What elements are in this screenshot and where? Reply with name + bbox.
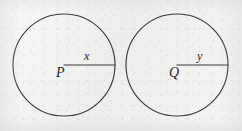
circle-q-radius-label: y [197, 50, 202, 62]
geometry-figure: P x Q y [0, 0, 242, 131]
circle-p-center-label: P [56, 66, 65, 80]
circle-p-radius-label: x [84, 50, 89, 62]
circle-q-center-label: Q [169, 66, 179, 80]
circles-diagram [0, 0, 242, 131]
